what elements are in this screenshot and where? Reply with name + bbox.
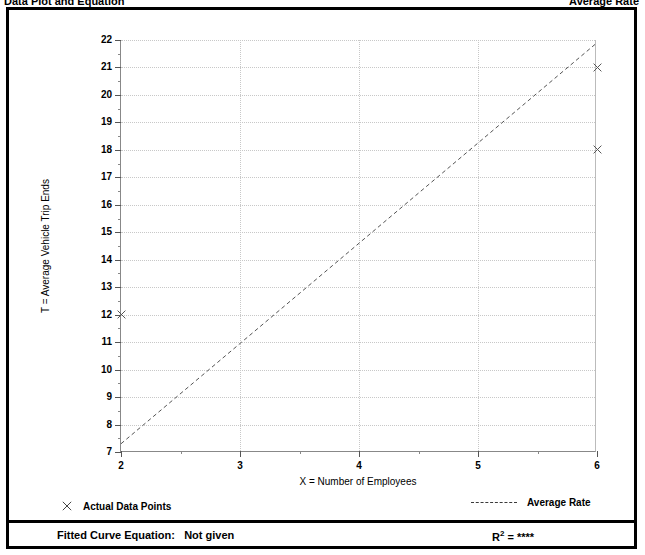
r-squared-exponent: 2 — [500, 529, 504, 538]
y-axis-tick — [115, 177, 121, 178]
x-axis-tick — [240, 451, 241, 457]
figure-frame: T = Average Vehicle Trip Ends 7891011121… — [6, 7, 637, 549]
y-axis-title: T = Average Vehicle Trip Ends — [39, 40, 53, 452]
footer: Fitted Curve Equation: Not given R2 = **… — [9, 523, 634, 546]
y-axis-tick — [115, 397, 121, 398]
x-axis-title: X = Number of Employees — [120, 476, 596, 487]
y-axis-tick-label: 12 — [101, 310, 112, 320]
y-axis-tick-label: 17 — [101, 172, 112, 182]
x-axis-tick — [478, 451, 479, 457]
header-title-left: Data Plot and Equation — [4, 0, 124, 7]
plot-inner — [121, 40, 595, 451]
y-axis-minor-tick — [118, 109, 121, 110]
y-axis-minor-tick — [118, 328, 121, 329]
y-axis-tick — [115, 122, 121, 123]
legend-item-average-rate: Average Rate — [471, 497, 591, 508]
y-axis-tick-label: 8 — [106, 420, 112, 430]
x-axis-minor-tick — [181, 451, 182, 454]
y-axis-tick — [115, 67, 121, 68]
x-axis-tick-label: 6 — [594, 461, 600, 471]
y-axis-tick — [115, 150, 121, 151]
y-axis-minor-tick — [118, 246, 121, 247]
x-axis-minor-tick — [300, 451, 301, 454]
y-axis-tick-label: 9 — [106, 392, 112, 402]
y-axis-tick — [115, 370, 121, 371]
y-axis-minor-tick — [118, 164, 121, 165]
legend: Actual Data Points Average Rate — [9, 494, 634, 520]
legend-item-actual-data-points: Actual Data Points — [62, 497, 171, 515]
r-squared: R2 = **** — [492, 529, 534, 543]
y-axis-minor-tick — [118, 191, 121, 192]
y-axis-tick — [115, 315, 121, 316]
dashed-line-icon — [471, 502, 517, 503]
average-rate-line — [121, 40, 595, 451]
y-axis-tick-label: 11 — [101, 337, 112, 347]
y-axis-tick-label: 22 — [101, 35, 112, 45]
fitted-curve-equation-value: Not given — [184, 529, 234, 541]
y-axis-tick-label: 15 — [101, 227, 112, 237]
x-axis-tick-label: 2 — [118, 461, 124, 471]
x-axis-tick — [121, 451, 122, 457]
r-squared-value: **** — [517, 531, 534, 543]
fitted-curve-equation-label: Fitted Curve Equation: — [57, 529, 175, 541]
y-axis-tick — [115, 260, 121, 261]
fitted-curve-equation: Fitted Curve Equation: Not given — [57, 529, 234, 541]
x-axis-tick-label: 5 — [475, 461, 481, 471]
y-axis-tick-label: 18 — [101, 145, 112, 155]
y-axis-minor-tick — [118, 438, 121, 439]
y-axis-tick — [115, 287, 121, 288]
x-axis-minor-tick — [419, 451, 420, 454]
y-axis-tick-label: 14 — [101, 255, 112, 265]
legend-label-average-rate: Average Rate — [527, 497, 591, 508]
r-squared-label: R — [492, 531, 500, 543]
plot-box: 7891011121314151617181920212223456 — [120, 40, 596, 452]
x-axis-tick — [597, 451, 598, 457]
y-axis-tick-label: 7 — [106, 447, 112, 457]
y-axis-minor-tick — [118, 383, 121, 384]
x-axis-tick-label: 4 — [356, 461, 362, 471]
legend-label-actual-data-points: Actual Data Points — [83, 501, 171, 512]
y-axis-tick-label: 13 — [101, 282, 112, 292]
y-axis-minor-tick — [118, 54, 121, 55]
y-axis-minor-tick — [118, 273, 121, 274]
y-axis-tick — [115, 425, 121, 426]
chart-area: T = Average Vehicle Trip Ends 7891011121… — [9, 10, 634, 480]
y-axis-tick-label: 16 — [101, 200, 112, 210]
y-axis-minor-tick — [118, 356, 121, 357]
y-axis-tick — [115, 205, 121, 206]
r-squared-equals: = — [507, 531, 513, 543]
x-axis-tick-label: 3 — [237, 461, 243, 471]
y-axis-tick — [115, 95, 121, 96]
y-axis-minor-tick — [118, 219, 121, 220]
y-axis-tick-label: 20 — [101, 90, 112, 100]
y-axis-tick-label: 21 — [101, 62, 112, 72]
y-axis-tick — [115, 342, 121, 343]
header-title-right: Average Rate — [569, 0, 639, 7]
y-axis-minor-tick — [118, 81, 121, 82]
y-axis-tick-label: 10 — [101, 365, 112, 375]
y-axis-minor-tick — [118, 411, 121, 412]
y-axis-minor-tick — [118, 301, 121, 302]
y-axis-minor-tick — [118, 136, 121, 137]
x-axis-tick — [359, 451, 360, 457]
x-marker-icon — [62, 497, 72, 515]
y-axis-tick — [115, 40, 121, 41]
y-axis-tick-label: 19 — [101, 117, 112, 127]
x-axis-minor-tick — [538, 451, 539, 454]
y-axis-tick — [115, 232, 121, 233]
